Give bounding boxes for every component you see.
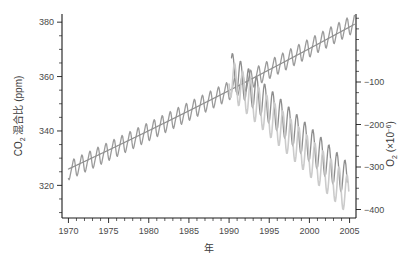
x-axis-tick-label: 1995 [259,226,279,236]
co2-o2-line-chart[interactable]: 320340360380−100−200−300−400197019751980… [0,0,410,258]
y-axis-left-tick-label: 360 [39,72,54,82]
chart-figure: 320340360380−100−200−300−400197019751980… [0,0,410,258]
y-axis-right-tick-label: −100 [364,77,384,87]
y-axis-left-tick-label: 320 [39,181,54,191]
y-axis-left-title: CO2 混合比 (ppm) [12,76,26,157]
x-axis-tick-label: 1985 [179,226,199,236]
y-axis-left-tick-label: 340 [39,126,54,136]
x-axis-tick-label: 2000 [299,226,319,236]
x-axis-tick-label: 1970 [58,226,78,236]
x-axis-tick-label: 1980 [139,226,159,236]
y-axis-right-tick-label: −200 [364,120,384,130]
x-axis-tick-label: 1990 [219,226,239,236]
x-axis-tick-label: 2005 [340,226,360,236]
x-axis-title: 年 [204,242,214,254]
y-axis-right-tick-label: −300 [364,162,384,172]
y-axis-left-tick-label: 380 [39,17,54,27]
x-axis-tick-label: 1975 [99,226,119,236]
y-axis-right-tick-label: −400 [364,205,384,215]
